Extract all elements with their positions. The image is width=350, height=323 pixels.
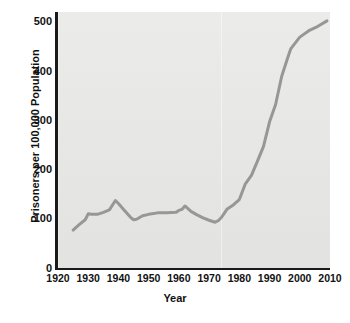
line-chart-figure: 0100200300400500 19201930194019501960197… bbox=[0, 0, 350, 323]
x-tick-label: 1990 bbox=[253, 272, 287, 284]
y-axis-line bbox=[55, 12, 58, 269]
plot-area bbox=[58, 12, 330, 268]
x-tick-label: 2010 bbox=[313, 272, 347, 284]
x-tick-label: 1960 bbox=[162, 272, 196, 284]
x-tick-label: 1940 bbox=[101, 272, 135, 284]
data-series-layer bbox=[58, 12, 330, 268]
x-tick-label: 1920 bbox=[41, 272, 75, 284]
x-axis-line bbox=[55, 268, 330, 270]
x-tick-label: 1930 bbox=[71, 272, 105, 284]
x-tick-label: 1980 bbox=[222, 272, 256, 284]
x-axis-title: Year bbox=[0, 292, 350, 304]
x-axis-tick-labels: 1920193019401950196019701980199020002010 bbox=[0, 272, 350, 286]
x-tick-label: 1950 bbox=[132, 272, 166, 284]
y-axis-title: Prisoners per 100,000 Population bbox=[29, 6, 41, 266]
x-tick-label: 1970 bbox=[192, 272, 226, 284]
imprisonment-rate-line bbox=[73, 21, 327, 230]
x-tick-label: 2000 bbox=[283, 272, 317, 284]
